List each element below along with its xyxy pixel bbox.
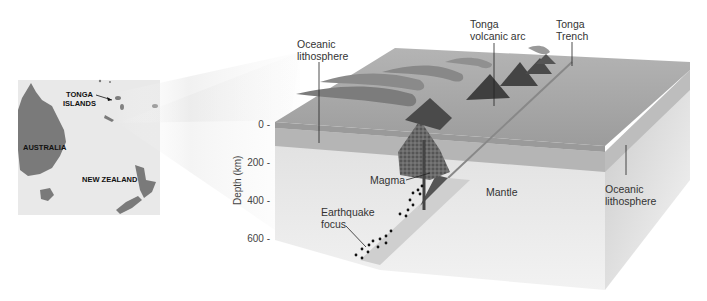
depth-tick-600: 600 - [230,233,270,244]
map-label-australia: AUSTRALIA [23,143,66,152]
map-label-new-zealand: NEW ZEALAND [82,175,137,184]
figure: TONGA ISLANDS AUSTRALIA NEW ZEALAND Ocea… [0,0,707,301]
depth-tick-400: 400 - [230,195,270,206]
label-oceanic-lithosphere-left: Oceanic lithosphere [297,38,348,62]
label-magma: Magma [370,174,405,186]
label-oceanic-lithosphere-right: Oceanic lithosphere [605,183,656,207]
label-mantle: Mantle [486,186,518,198]
label-earthquake-focus: Earthquake focus [321,206,375,230]
map-label-tonga-islands: TONGA ISLANDS [63,90,96,108]
depth-tick-200: 200 - [230,157,270,168]
label-tonga-volcanic-arc: Tonga volcanic arc [470,18,525,42]
diagram-graphics [0,0,707,301]
label-tonga-trench: Tonga Trench [556,18,588,42]
depth-tick-0: 0 - [230,119,270,130]
